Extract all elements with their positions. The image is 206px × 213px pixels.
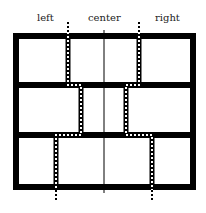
right-dotted-path <box>126 24 152 200</box>
left-dotted-path <box>56 24 81 200</box>
grid-diagram <box>0 0 206 213</box>
